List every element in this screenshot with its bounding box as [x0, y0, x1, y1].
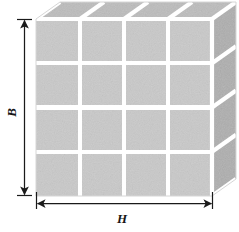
height-dimension-label: B	[5, 108, 18, 117]
block-solid	[36, 2, 236, 196]
figure-container: B H	[0, 0, 239, 232]
block-diagram-svg	[0, 0, 239, 232]
dimension-b	[17, 20, 32, 196]
width-dimension-label: H	[117, 212, 127, 225]
